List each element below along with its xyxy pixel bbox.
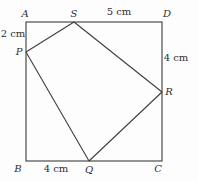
measurement-label-DR-4cm: 4 cm [164,52,189,63]
segment-PS [26,22,74,52]
measurement-label-AP-2cm: 2 cm [1,28,26,39]
geometry-diagram: AS5 cmD2 cmP4 cmRB4 cmQC [0,0,198,181]
vertex-label-C: C [154,163,162,174]
segment-RQ [89,92,162,161]
segment-SR [74,22,162,92]
square-ABCD [26,22,162,161]
vertex-label-Q: Q [85,164,93,175]
vertex-label-D: D [162,8,171,19]
vertex-label-S: S [71,8,78,19]
vertex-label-A: A [20,8,28,19]
measurement-label-SD-5cm: 5 cm [107,6,132,17]
segment-QP [26,52,89,161]
measurement-label-BQ-4cm: 4 cm [44,163,69,174]
diagram-svg: AS5 cmD2 cmP4 cmRB4 cmQC [0,0,198,181]
vertex-label-B: B [13,163,21,174]
vertex-label-R: R [164,86,173,97]
vertex-label-P: P [15,46,23,57]
